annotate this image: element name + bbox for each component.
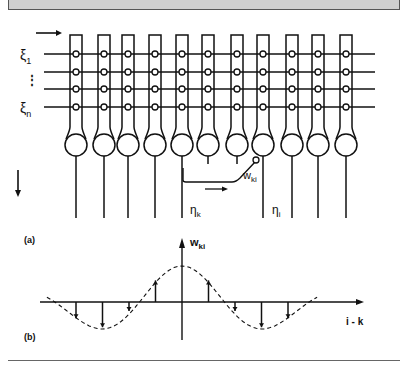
input-label-xi-n: ξn bbox=[20, 100, 31, 119]
input-label-xi-1: ξ1 bbox=[20, 47, 31, 66]
synapse bbox=[101, 51, 107, 57]
synapse bbox=[101, 104, 107, 110]
synapse bbox=[73, 104, 79, 110]
synapse bbox=[234, 51, 240, 57]
soma bbox=[117, 134, 139, 156]
synapse bbox=[343, 51, 349, 57]
neuron-9 bbox=[281, 35, 303, 218]
neuron-3 bbox=[117, 35, 139, 218]
neuron-2 bbox=[93, 35, 115, 218]
synapse bbox=[234, 86, 240, 92]
synapse bbox=[234, 104, 240, 110]
synapse bbox=[260, 104, 266, 110]
synapse bbox=[179, 104, 185, 110]
synapse bbox=[125, 69, 131, 75]
synapse bbox=[73, 69, 79, 75]
synapse bbox=[205, 104, 211, 110]
synapse bbox=[315, 51, 321, 57]
synapse bbox=[152, 104, 158, 110]
y-axis-label: wki bbox=[189, 236, 205, 251]
synapse bbox=[125, 104, 131, 110]
output-label-eta-i: ηi bbox=[272, 203, 281, 219]
soma bbox=[281, 134, 303, 156]
synapse bbox=[343, 69, 349, 75]
output-label-eta-k: ηk bbox=[190, 203, 202, 219]
input-lines bbox=[44, 54, 375, 107]
weight-label-wki: wki bbox=[242, 169, 257, 184]
synapse bbox=[205, 86, 211, 92]
synapse bbox=[125, 51, 131, 57]
synapse bbox=[125, 86, 131, 92]
soma bbox=[144, 134, 166, 156]
synapse bbox=[152, 86, 158, 92]
neural-field-diagram: ξ1 ⋮ ξn wki ηk ηi (a) wki i - k (b) bbox=[0, 0, 400, 366]
synapse bbox=[101, 69, 107, 75]
panel-label-b: (b) bbox=[24, 332, 36, 342]
synapse bbox=[289, 69, 295, 75]
x-axis-arrow-icon bbox=[356, 299, 364, 305]
synapse bbox=[343, 86, 349, 92]
synapse bbox=[315, 86, 321, 92]
soma bbox=[226, 134, 248, 156]
neuron-11 bbox=[335, 35, 357, 218]
soma bbox=[93, 134, 115, 156]
synapse bbox=[315, 104, 321, 110]
synapse bbox=[205, 69, 211, 75]
synapse bbox=[289, 51, 295, 57]
input-direction-arrow-icon bbox=[36, 30, 62, 36]
synapse bbox=[289, 104, 295, 110]
neuron-5 bbox=[171, 35, 193, 218]
soma bbox=[171, 134, 193, 156]
synapse bbox=[179, 51, 185, 57]
synapse bbox=[101, 86, 107, 92]
footer-divider bbox=[8, 360, 400, 361]
synapse bbox=[234, 69, 240, 75]
weight-profile-chart bbox=[40, 238, 364, 340]
synapse bbox=[260, 69, 266, 75]
synapse bbox=[289, 86, 295, 92]
soma bbox=[65, 134, 87, 156]
synapse bbox=[152, 51, 158, 57]
synapse bbox=[260, 51, 266, 57]
panel-label-a: (a) bbox=[24, 235, 35, 245]
synapse bbox=[179, 69, 185, 75]
neuron-10 bbox=[307, 35, 329, 218]
y-axis-arrow-icon bbox=[179, 238, 185, 248]
output-direction-arrow-icon bbox=[15, 170, 21, 197]
neuron-4 bbox=[144, 35, 166, 218]
synapse bbox=[315, 69, 321, 75]
synapse bbox=[152, 69, 158, 75]
soma bbox=[197, 134, 219, 156]
synapse bbox=[179, 86, 185, 92]
x-axis-label: i - k bbox=[346, 316, 364, 327]
neuron-8 bbox=[252, 35, 274, 218]
synapse bbox=[260, 86, 266, 92]
synapse bbox=[205, 51, 211, 57]
soma bbox=[335, 134, 357, 156]
synapse bbox=[73, 86, 79, 92]
neuron-1 bbox=[65, 35, 87, 218]
synapse bbox=[343, 104, 349, 110]
soma bbox=[307, 134, 329, 156]
input-ellipsis: ⋮ bbox=[26, 73, 38, 87]
neuron-array bbox=[65, 35, 357, 218]
synapse bbox=[73, 51, 79, 57]
soma bbox=[252, 134, 274, 156]
